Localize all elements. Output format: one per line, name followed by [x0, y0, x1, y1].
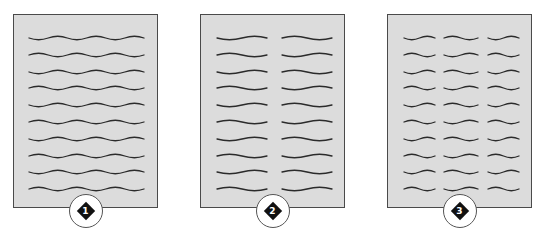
text-line [444, 53, 478, 57]
step-number: 1 [70, 195, 102, 227]
text-line [29, 154, 144, 158]
text-line [282, 70, 332, 74]
text-line [29, 36, 144, 40]
text-lines-one-column [14, 15, 159, 209]
text-line [282, 36, 332, 40]
text-line [29, 103, 144, 107]
text-line [217, 53, 267, 57]
text-line [488, 170, 519, 174]
text-line [404, 53, 435, 57]
text-line [404, 170, 435, 174]
text-line [282, 154, 332, 158]
text-line [404, 137, 435, 141]
text-line [488, 137, 519, 141]
text-line [444, 103, 478, 107]
text-line [217, 86, 267, 90]
text-line [29, 187, 144, 191]
text-line [488, 154, 519, 158]
text-line [444, 86, 478, 90]
text-line [444, 187, 478, 191]
text-line [488, 187, 519, 191]
text-line [488, 120, 519, 124]
text-line [488, 86, 519, 90]
text-line [29, 53, 144, 57]
text-line [404, 154, 435, 158]
text-line [217, 120, 267, 124]
text-line [282, 86, 332, 90]
page-two-columns [200, 14, 345, 208]
step-number: 2 [257, 195, 289, 227]
text-line [404, 36, 435, 40]
text-line [217, 187, 267, 191]
text-line [29, 86, 144, 90]
text-line [217, 70, 267, 74]
text-line [444, 120, 478, 124]
text-line [29, 137, 144, 141]
page-one-column [13, 14, 158, 208]
text-line [404, 120, 435, 124]
text-line [488, 53, 519, 57]
step-badge-3: 3 [443, 194, 477, 228]
text-line [444, 170, 478, 174]
text-line [217, 154, 267, 158]
step-badge-1: 1 [69, 194, 103, 228]
text-line [404, 103, 435, 107]
text-line [29, 170, 144, 174]
text-line [282, 103, 332, 107]
text-lines-three-columns [388, 15, 533, 209]
text-line [488, 103, 519, 107]
text-line [29, 70, 144, 74]
text-line [217, 36, 267, 40]
text-line [282, 137, 332, 141]
text-line [217, 103, 267, 107]
text-line [404, 86, 435, 90]
text-line [29, 120, 144, 124]
page-three-columns [387, 14, 532, 208]
text-line [444, 70, 478, 74]
step-badge-2: 2 [256, 194, 290, 228]
text-line [217, 170, 267, 174]
text-line [282, 187, 332, 191]
text-lines-two-columns [201, 15, 346, 209]
text-line [404, 70, 435, 74]
text-line [444, 137, 478, 141]
text-line [444, 154, 478, 158]
text-line [282, 53, 332, 57]
text-line [404, 187, 435, 191]
text-line [488, 70, 519, 74]
text-line [217, 137, 267, 141]
text-line [282, 170, 332, 174]
text-line [282, 120, 332, 124]
text-line [488, 36, 519, 40]
step-number: 3 [444, 195, 476, 227]
text-line [444, 36, 478, 40]
